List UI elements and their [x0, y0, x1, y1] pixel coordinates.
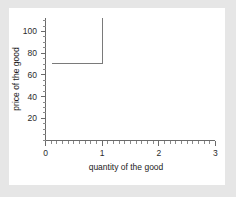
- supply-curve-step-line: [52, 18, 102, 63]
- y-axis: 20 40 60 80 100 price of the good: [11, 18, 46, 140]
- x-tick-label-3: 3: [213, 148, 218, 158]
- series-supply-curve: [52, 18, 102, 63]
- y-tick-label-40: 40: [28, 92, 38, 102]
- x-axis-title: quantity of the good: [89, 162, 164, 172]
- supply-curve-chart: 20 40 60 80 100 price of the good: [9, 8, 225, 185]
- y-tick-label-80: 80: [28, 48, 38, 58]
- chart-panel: 20 40 60 80 100 price of the good: [9, 8, 225, 185]
- y-tick-label-100: 100: [23, 26, 37, 36]
- x-tick-label-1: 1: [100, 148, 105, 158]
- x-tick-label-0: 0: [43, 148, 48, 158]
- y-tick-label-20: 20: [28, 113, 38, 123]
- y-axis-major-ticks: [41, 31, 46, 118]
- y-tick-label-60: 60: [28, 70, 38, 80]
- y-axis-title: price of the good: [11, 47, 21, 111]
- figure-frame: 20 40 60 80 100 price of the good: [0, 0, 236, 197]
- x-axis: 0 1 2 3 quantity of the good: [43, 141, 218, 173]
- x-tick-label-2: 2: [156, 148, 161, 158]
